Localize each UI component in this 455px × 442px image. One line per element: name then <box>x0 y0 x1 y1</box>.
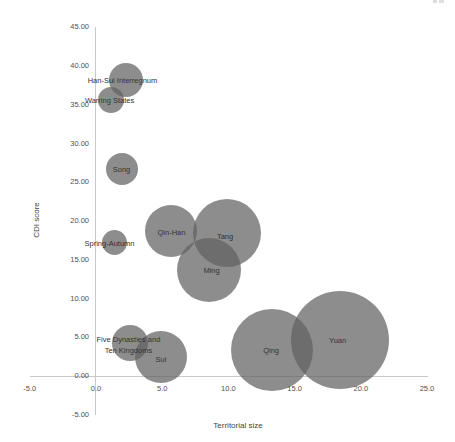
y-tick-30.00: 30.00 <box>39 139 89 149</box>
x-tick--5.0: -5.0 <box>13 384 47 394</box>
data-label-han-sui-interregnum: Han-Sui Interregnum <box>88 74 158 85</box>
data-label-warring-states: Warring States <box>85 95 134 106</box>
y-tick-40.00: 40.00 <box>39 61 89 71</box>
x-tick-10.0: 10.0 <box>211 384 245 394</box>
data-label-qing: Qing <box>263 344 279 355</box>
y-axis-title: CDI score <box>32 202 41 238</box>
y-tick-15.00: 15.00 <box>39 255 89 265</box>
data-label-yuan: Yuan <box>329 335 346 346</box>
x-tick-15.0: 15.0 <box>278 384 312 394</box>
y-tick--5.00: -5.00 <box>39 410 89 420</box>
y-tick-5.00: 5.00 <box>39 332 89 342</box>
y-tick-10.00: 10.00 <box>39 294 89 304</box>
x-tick-5.0: 5.0 <box>145 384 179 394</box>
data-label-qin-han: Qin-Han <box>157 227 185 238</box>
data-label-ming: Ming <box>203 264 219 275</box>
y-tick-25.00: 25.00 <box>39 177 89 187</box>
data-label-song: Song <box>113 164 131 175</box>
x-tick-0.0: 0.0 <box>79 384 113 394</box>
data-label-tang: Tang <box>217 230 233 241</box>
y-tick-0.00: 0.00 <box>39 371 89 381</box>
y-tick-20.00: 20.00 <box>39 216 89 226</box>
y-tick-35.00: 35.00 <box>39 100 89 110</box>
y-tick-45.00: 45.00 <box>39 22 89 32</box>
data-label-sui: Sui <box>155 353 166 364</box>
x-tick-25.0: 25.0 <box>410 384 444 394</box>
data-label-five-dynasties-and: Five Dynasties and Ten Kingdoms <box>97 334 161 356</box>
data-label-spring-autumn: Spring-Autumn <box>85 237 135 248</box>
x-axis-title: Territorial size <box>213 421 262 430</box>
cropped-text-artifact <box>433 0 447 3</box>
bubble-chart: Han-Sui InterregnumWarring StatesSongSpr… <box>0 0 455 442</box>
x-tick-20.0: 20.0 <box>344 384 378 394</box>
